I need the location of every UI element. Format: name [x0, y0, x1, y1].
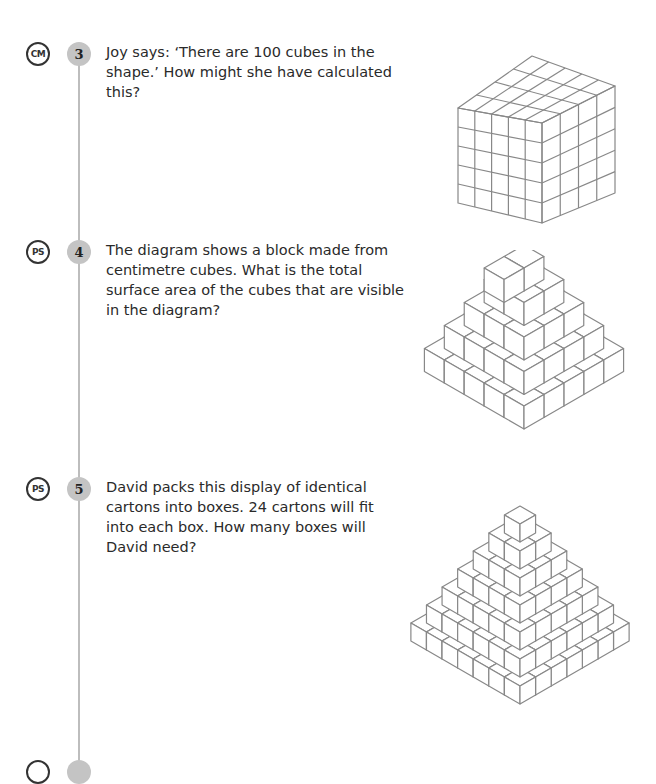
question-text: Joy says: ‘There are 100 cubes in the sh…: [106, 42, 406, 102]
question-timeline: [78, 48, 80, 766]
strand-badge-ps: PS: [26, 477, 50, 501]
strand-badge-ps: PS: [26, 240, 50, 264]
question-number: 5: [67, 477, 91, 501]
cuboid-figure: [450, 48, 650, 238]
strand-badge-cm: CM: [26, 42, 50, 66]
question-text: The diagram shows a block made from cent…: [106, 240, 406, 320]
question-number-partial: [67, 760, 91, 784]
question-number: 4: [67, 240, 91, 264]
stepped-pyramid-figure-large: [402, 490, 642, 770]
stepped-pyramid-figure-small: [422, 250, 642, 465]
question-number: 3: [67, 42, 91, 66]
question-text: David packs this display of identical ca…: [106, 477, 406, 557]
strand-badge-partial: [26, 760, 50, 784]
